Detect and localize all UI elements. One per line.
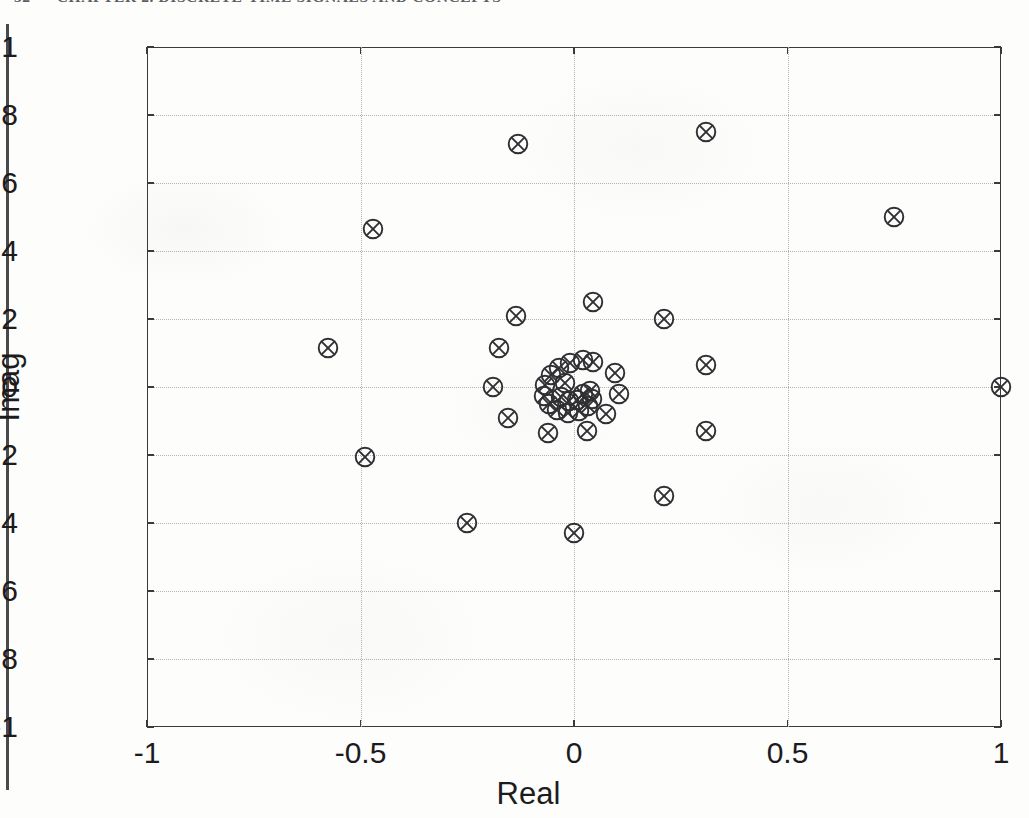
x-axis-title: Real	[0, 776, 1029, 812]
x-axis-tick	[1000, 720, 1002, 727]
y-axis-tick-label: 0.2	[0, 302, 18, 336]
data-point-marker	[695, 354, 717, 376]
data-point-marker	[576, 420, 598, 442]
data-point-marker	[572, 383, 594, 405]
data-point-marker	[456, 512, 478, 534]
y-axis-tick-label: 1	[0, 30, 18, 64]
x-axis-tick-label: -0.5	[301, 736, 421, 770]
x-axis-tick	[1000, 47, 1002, 54]
y-axis-tick	[147, 250, 154, 252]
data-point-marker	[317, 337, 339, 359]
x-axis-tick	[787, 47, 789, 54]
data-point-marker	[497, 407, 519, 429]
page-header-title: CHAPTER 2. DISCRETE-TIME SIGNALS AND CON…	[57, 0, 502, 5]
data-point-marker	[537, 422, 559, 444]
y-axis-tick	[994, 318, 1001, 320]
y-axis-tick	[994, 454, 1001, 456]
x-axis-tick	[146, 47, 148, 54]
y-axis-tick	[147, 726, 154, 728]
y-axis-tick	[147, 454, 154, 456]
y-axis-tick	[994, 114, 1001, 116]
y-axis-tick	[147, 590, 154, 592]
y-axis-tick	[147, 114, 154, 116]
y-axis-tick	[994, 522, 1001, 524]
x-axis-title-text: Real	[497, 776, 561, 811]
y-axis-tick	[994, 658, 1001, 660]
data-point-marker	[883, 206, 905, 228]
x-axis-tick-label: -1	[87, 736, 207, 770]
y-axis-tick-label: 0.4	[0, 234, 18, 268]
data-point-marker	[482, 376, 504, 398]
x-axis-tick	[787, 720, 789, 727]
data-point-marker	[604, 362, 626, 384]
y-axis-tick	[147, 522, 154, 524]
x-axis-tick	[146, 720, 148, 727]
scatter-plot	[147, 47, 1001, 727]
running-page-header: 52CHAPTER 2. DISCRETE-TIME SIGNALS AND C…	[14, 0, 501, 8]
data-point-marker	[507, 133, 529, 155]
x-axis-tick	[573, 720, 575, 727]
data-point-marker	[563, 522, 585, 544]
y-axis-tick	[994, 250, 1001, 252]
data-point-marker	[488, 337, 510, 359]
y-axis-tick-label: -0.6	[0, 574, 18, 608]
y-axis-tick	[147, 658, 154, 660]
data-point-marker	[653, 308, 675, 330]
y-axis-tick	[994, 590, 1001, 592]
y-axis-tick-label: -0.2	[0, 438, 18, 472]
y-axis-tick-label: -1	[0, 710, 18, 744]
y-axis-tick	[147, 386, 154, 388]
x-axis-tick	[360, 720, 362, 727]
y-axis-tick-label: -0.8	[0, 642, 18, 676]
y-axis-tick	[147, 46, 154, 48]
y-axis-tick	[147, 318, 154, 320]
page-number: 52	[14, 0, 31, 5]
scanned-page: 52CHAPTER 2. DISCRETE-TIME SIGNALS AND C…	[0, 0, 1029, 818]
data-point-marker	[505, 305, 527, 327]
data-point-marker	[653, 485, 675, 507]
y-axis-title: Imag	[0, 353, 27, 422]
data-point-marker	[582, 291, 604, 313]
x-axis-tick	[360, 47, 362, 54]
x-axis-tick	[573, 47, 575, 54]
y-axis-tick-label: 0.6	[0, 166, 18, 200]
x-axis-tick-label: 1	[941, 736, 1029, 770]
data-point-marker	[354, 446, 376, 468]
data-point-marker	[362, 218, 384, 240]
data-point-marker	[608, 383, 630, 405]
y-axis-tick	[147, 182, 154, 184]
data-point-marker	[554, 372, 576, 394]
y-axis-tick	[994, 182, 1001, 184]
x-axis-tick-label: 0.5	[728, 736, 848, 770]
data-point-marker	[695, 420, 717, 442]
data-point-marker	[695, 121, 717, 143]
data-point-marker	[582, 351, 604, 373]
y-axis-tick-label: 0.8	[0, 98, 18, 132]
data-point-marker	[990, 376, 1012, 398]
y-axis-tick-label: -0.4	[0, 506, 18, 540]
x-axis-tick-label: 0	[514, 736, 634, 770]
